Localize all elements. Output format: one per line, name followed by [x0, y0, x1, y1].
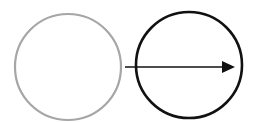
source-circle: [15, 14, 121, 120]
arrowhead-icon: [222, 61, 235, 73]
arrow: [125, 61, 235, 73]
diagram-canvas: [0, 0, 253, 123]
